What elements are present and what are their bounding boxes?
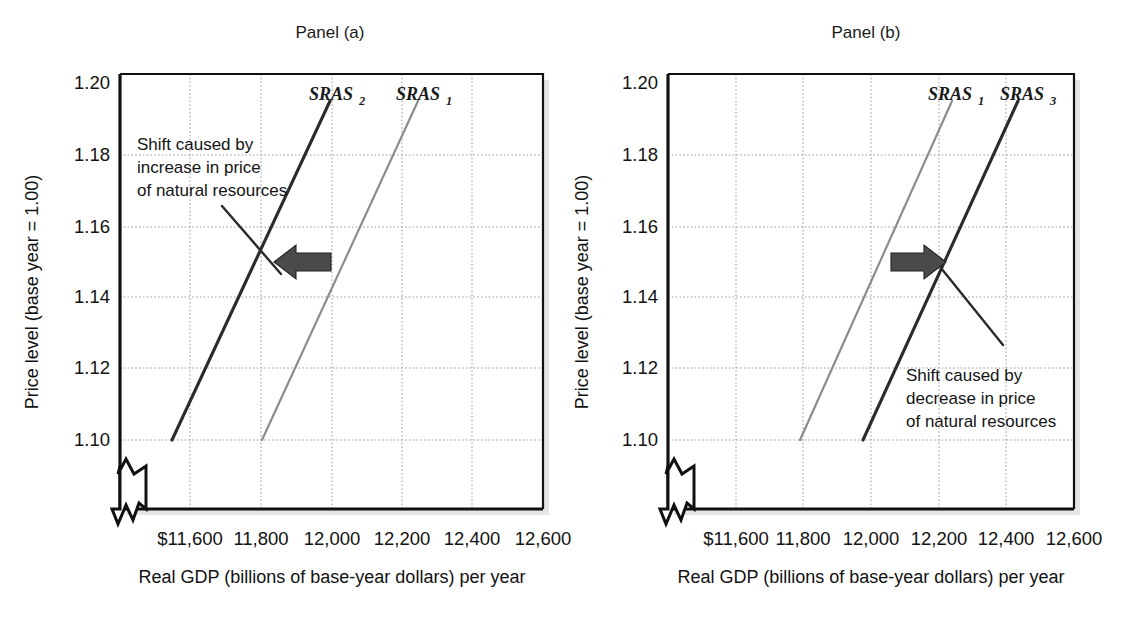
panel-a-label-sras1-sub: 1	[446, 94, 452, 108]
y-tick-1-12: 1.12	[622, 357, 658, 378]
panel-a-y-tick-labels: 1.20 1.18 1.16 1.14 1.12 1.10	[74, 72, 110, 450]
panel-b-annotation-line2: decrease in price	[906, 389, 1035, 408]
x-tick-12600: 12,600	[515, 528, 572, 549]
panel-a-annotation-line3: of natural resources	[137, 181, 287, 200]
x-tick-12400: 12,400	[978, 528, 1035, 549]
y-tick-1-10: 1.10	[74, 429, 110, 450]
panel-b-label-sras1-base: SRAS	[928, 84, 972, 104]
panel-a-title: Panel (a)	[296, 23, 365, 42]
y-tick-1-18: 1.18	[74, 144, 110, 165]
x-tick-12200: 12,200	[374, 528, 431, 549]
y-tick-1-12: 1.12	[74, 357, 110, 378]
x-tick-12000: 12,000	[843, 528, 900, 549]
panel-a-label-sras2-base: SRAS	[309, 84, 353, 104]
y-tick-1-16: 1.16	[74, 216, 110, 237]
x-tick-11600: $11,600	[703, 528, 769, 549]
y-tick-1-10: 1.10	[622, 429, 658, 450]
x-tick-11800: 11,800	[775, 528, 830, 549]
y-tick-1-18: 1.18	[622, 144, 658, 165]
panel-a-x-axis-title: Real GDP (billions of base-year dollars)…	[139, 567, 526, 587]
y-tick-1-16: 1.16	[622, 216, 658, 237]
y-tick-1-14: 1.14	[622, 286, 658, 307]
panel-a-x-tick-labels: $11,600 11,800 12,000 12,200 12,400 12,6…	[157, 528, 571, 549]
sras-shift-figure: Panel (a)	[0, 0, 1131, 621]
y-tick-1-20: 1.20	[622, 72, 658, 93]
panel-a-label-sras2-sub: 2	[358, 94, 365, 108]
x-tick-12600: 12,600	[1046, 528, 1103, 549]
panel-b-x-axis-title: Real GDP (billions of base-year dollars)…	[678, 567, 1065, 587]
panel-b-label-sras3-base: SRAS	[1000, 84, 1044, 104]
x-tick-11600: $11,600	[157, 528, 223, 549]
y-tick-1-14: 1.14	[74, 286, 110, 307]
y-tick-1-20: 1.20	[74, 72, 110, 93]
panel-b-annotation-line1: Shift caused by	[906, 366, 1023, 385]
panel-a-y-axis-title: Price level (base year = 1.00)	[22, 175, 42, 410]
panel-b-title: Panel (b)	[832, 23, 901, 42]
panel-b-x-tick-labels: $11,600 11,800 12,000 12,200 12,400 12,6…	[703, 528, 1102, 549]
panel-a: Panel (a)	[22, 23, 571, 587]
panel-b-label-sras1-sub: 1	[978, 94, 984, 108]
figure-canvas: Panel (a)	[0, 0, 1131, 621]
x-tick-12200: 12,200	[911, 528, 968, 549]
panel-b: Panel (b) 1.20 1.18	[572, 23, 1102, 587]
panel-b-y-axis-title: Price level (base year = 1.00)	[572, 175, 592, 410]
x-tick-11800: 11,800	[233, 528, 288, 549]
x-tick-12400: 12,400	[444, 528, 501, 549]
panel-a-annotation-line1: Shift caused by	[137, 135, 254, 154]
x-tick-12000: 12,000	[304, 528, 361, 549]
panel-a-annotation-line2: increase in price	[137, 158, 261, 177]
panel-b-y-tick-labels: 1.20 1.18 1.16 1.14 1.12 1.10	[622, 72, 658, 450]
panel-b-annotation-line3: of natural resources	[906, 412, 1056, 431]
panel-b-label-sras3-sub: 3	[1049, 94, 1056, 108]
panel-a-label-sras1-base: SRAS	[396, 84, 440, 104]
